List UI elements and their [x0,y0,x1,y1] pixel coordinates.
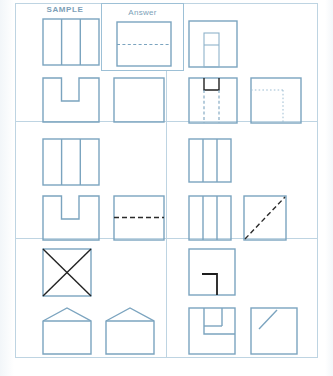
answer-box[interactable]: Answer [101,3,184,71]
figure-square-diagonal-dashed [243,195,287,241]
figure-square-three-vertical-strips [42,18,100,66]
figure-plain-square [113,77,165,123]
figure-square-three-vertical-strips [42,138,100,186]
panel-6[interactable] [167,239,318,357]
figure-square-inner-l-step [188,307,236,355]
figure-square-dark-inner-l-corner [188,248,236,296]
figure-square-dotted-inner-corner [250,77,302,124]
figure-square-u-notch [42,77,100,123]
screenshot-root: SAMPLE [0,0,333,376]
figure-square-horizontal-dashed [113,195,165,241]
panel-3[interactable] [16,122,167,240]
panel-sample[interactable]: SAMPLE [16,4,167,122]
panel-4[interactable] [167,122,318,240]
figure-square-short-diagonal [250,307,298,355]
puzzle-grid: SAMPLE [15,3,318,358]
figure-house-pentagon [105,307,155,355]
figure-square-three-vertical-strips [188,195,232,241]
sample-label: SAMPLE [30,5,100,14]
figure-house-pentagon [42,307,92,355]
figure-square-dark-notch-dashed-verticals [188,77,238,124]
figure-answer-square-horizontal-dashed [116,21,172,67]
figure-square-u-notch [42,195,100,241]
answer-label: Answer [102,8,183,17]
figure-square-x-diagonals [42,248,92,297]
figure-square-three-vertical-strips [188,138,232,183]
panel-5[interactable] [16,239,167,357]
paper-sheet: SAMPLE [0,0,333,376]
panel-2[interactable] [167,4,318,122]
figure-square-inner-vertical-rectangle [188,20,238,68]
